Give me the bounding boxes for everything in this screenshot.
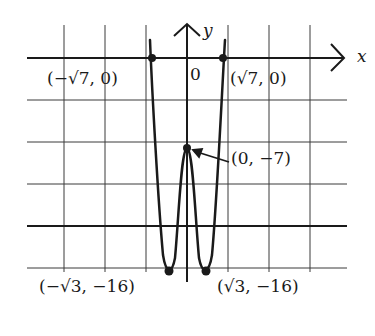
point-root-left: [148, 54, 156, 62]
min-left-label: (−√3, −16): [39, 278, 135, 295]
local-max-label: (0, −7): [231, 150, 291, 167]
root-left-label: (−√7, 0): [47, 70, 118, 87]
point-min-left: [165, 267, 174, 276]
annotation-arrow: [193, 149, 229, 162]
origin-label: 0: [190, 66, 201, 83]
point-min-right: [202, 267, 211, 276]
y-axis-label: y: [203, 22, 213, 39]
point-root-right: [219, 54, 227, 62]
x-axis: [27, 44, 344, 71]
point-local-max: [183, 144, 191, 152]
min-right-label: (√3, −16): [217, 278, 299, 295]
root-right-label: (√7, 0): [230, 70, 287, 87]
x-axis-label: x: [357, 48, 367, 65]
